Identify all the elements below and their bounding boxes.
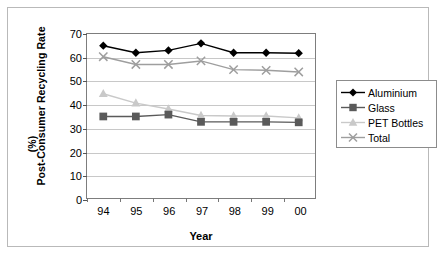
y-axis-tick-label: 70: [70, 28, 82, 40]
series-total: [99, 53, 303, 77]
x-axis-tick-mark: [284, 198, 285, 202]
y-axis-tick-label: 60: [70, 52, 82, 64]
x-axis-tick-label: 97: [196, 205, 208, 217]
plot-area: 010203040506070 94959697989900: [86, 33, 316, 199]
legend-cross-icon: [340, 131, 366, 144]
legend-label: Total: [366, 132, 390, 144]
x-axis-tick-label: 96: [163, 205, 175, 217]
x-axis-tick-mark: [218, 198, 219, 202]
x-axis-tick-mark: [251, 198, 252, 202]
y-axis-unit-text: (%): [26, 114, 38, 174]
x-axis-tick-mark: [87, 198, 88, 202]
legend-label: Aluminium: [366, 87, 417, 99]
legend-item-pet-bottles[interactable]: PET Bottles: [340, 115, 436, 130]
x-axis-tick-mark: [186, 198, 187, 202]
x-axis-tick-label: 94: [97, 205, 109, 217]
x-axis-tick-label: 98: [229, 205, 241, 217]
series-lines: [87, 34, 315, 198]
y-axis-tick-label: 50: [70, 75, 82, 87]
chart-legend: AluminiumGlassPET BottlesTotal: [336, 80, 437, 148]
y-axis-tick-label: 10: [70, 170, 82, 182]
legend-item-total[interactable]: Total: [340, 130, 436, 145]
legend-label: Glass: [366, 102, 395, 114]
x-axis-tick-mark: [153, 198, 154, 202]
x-axis-title: Year: [86, 230, 316, 242]
y-axis-tick-label: 0: [76, 194, 82, 206]
series-aluminium: [99, 39, 303, 57]
legend-square-icon: [340, 101, 366, 114]
x-axis-tick-label: 99: [262, 205, 274, 217]
y-axis-title: Post-Consumer Recycling Rate (%): [22, 8, 48, 208]
legend-item-aluminium[interactable]: Aluminium: [340, 85, 436, 100]
x-axis-tick-label: 95: [130, 205, 142, 217]
legend-label: PET Bottles: [366, 117, 423, 129]
legend-diamond-icon: [340, 86, 366, 99]
y-axis-tick-label: 40: [70, 99, 82, 111]
chart-figure: Post-Consumer Recycling Rate (%) 0102030…: [7, 7, 429, 247]
y-axis-tick-label: 30: [70, 123, 82, 135]
legend-item-glass[interactable]: Glass: [340, 100, 436, 115]
legend-triangle-icon: [340, 116, 366, 129]
y-axis-tick-label: 20: [70, 147, 82, 159]
x-axis-tick-label: 00: [294, 205, 306, 217]
x-axis-tick-mark: [120, 198, 121, 202]
